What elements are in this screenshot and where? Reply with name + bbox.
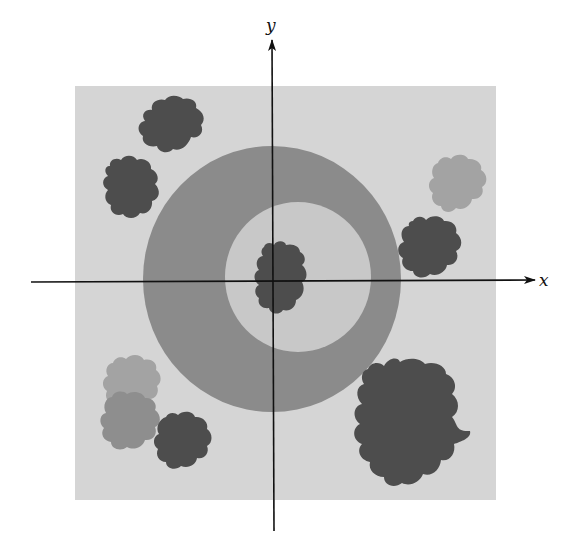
blob-top-left-lower	[103, 156, 159, 218]
x-axis-label: x	[539, 270, 549, 290]
set-diagram: x y	[0, 0, 569, 547]
y-axis-label: y	[265, 15, 276, 35]
